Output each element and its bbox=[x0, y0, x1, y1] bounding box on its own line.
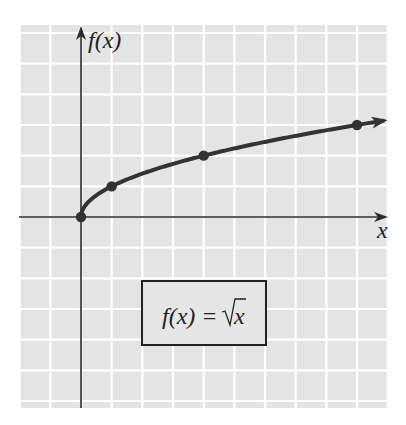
function-graph: f(x) x f(x) = x bbox=[0, 0, 406, 425]
equation-lhs: f(x) = bbox=[162, 303, 224, 329]
data-point bbox=[106, 181, 116, 191]
data-point bbox=[76, 212, 86, 222]
y-axis-label: f(x) bbox=[88, 27, 121, 53]
plot-area: f(x) x f(x) = x bbox=[0, 0, 406, 425]
data-point bbox=[198, 150, 208, 160]
equation-radicand: x bbox=[233, 303, 245, 329]
data-point bbox=[352, 120, 362, 130]
x-axis-label: x bbox=[376, 217, 388, 243]
equation-box: f(x) = x bbox=[142, 281, 266, 345]
